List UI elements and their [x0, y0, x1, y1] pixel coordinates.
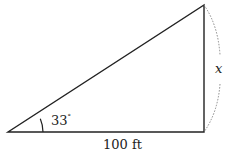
height-dimension-arc-bottom	[204, 84, 220, 132]
right-triangle	[8, 5, 204, 132]
base-label: 100 ft	[103, 137, 143, 152]
triangle-diagram: 33° 100 ft x	[0, 0, 227, 155]
height-label: x	[215, 61, 223, 76]
angle-arc	[40, 119, 43, 132]
height-dimension-arc-top	[204, 5, 220, 55]
angle-label: 33°	[51, 113, 71, 128]
